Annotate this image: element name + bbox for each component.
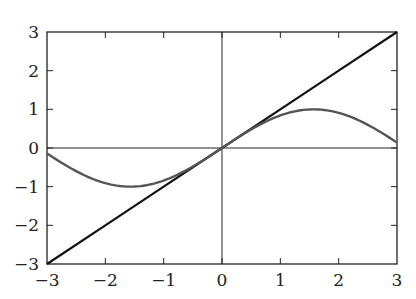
- y-tick-label: 0: [28, 138, 39, 158]
- x-tick-labels: −3−2−10123: [34, 270, 402, 290]
- x-tick-label: 1: [275, 270, 286, 290]
- x-tick-label: −1: [151, 270, 176, 290]
- y-tick-label: 1: [28, 99, 39, 119]
- y-tick-label: −3: [14, 254, 39, 274]
- y-tick-labels: −3−2−10123: [14, 22, 39, 274]
- y-tick-label: 2: [28, 61, 39, 81]
- chart: −3−2−10123 −3−2−10123: [0, 0, 416, 299]
- x-tick-label: 3: [392, 270, 403, 290]
- y-tick-label: 3: [28, 22, 39, 42]
- x-tick-label: 2: [333, 270, 344, 290]
- x-tick-label: 0: [217, 270, 228, 290]
- y-tick-label: −1: [14, 177, 39, 197]
- y-tick-label: −2: [14, 215, 39, 235]
- x-tick-label: −2: [93, 270, 118, 290]
